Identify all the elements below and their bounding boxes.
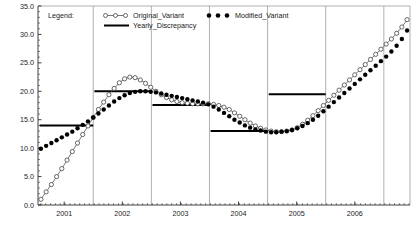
data-point-modified-variant bbox=[274, 130, 278, 134]
data-point-modified-variant bbox=[295, 126, 299, 130]
data-point-modified-variant bbox=[279, 129, 283, 133]
x-tick-label: 2002 bbox=[114, 209, 130, 218]
x-tick-label: 2003 bbox=[172, 209, 188, 218]
x-tick-label: 2004 bbox=[231, 209, 247, 218]
data-point-original-variant bbox=[138, 78, 142, 82]
data-point-original-variant bbox=[342, 83, 346, 87]
legend-title: Legend: bbox=[48, 11, 74, 20]
data-point-modified-variant bbox=[311, 118, 315, 122]
data-point-modified-variant bbox=[201, 100, 205, 104]
x-tick-label: 2001 bbox=[56, 209, 72, 218]
data-point-modified-variant bbox=[384, 54, 388, 58]
data-point-modified-variant bbox=[332, 100, 336, 104]
data-point-modified-variant bbox=[353, 82, 357, 86]
data-point-modified-variant bbox=[86, 119, 90, 123]
data-point-modified-variant bbox=[264, 129, 268, 133]
data-point-modified-variant bbox=[258, 128, 262, 132]
filled-circle-icon bbox=[216, 13, 221, 18]
data-point-modified-variant bbox=[101, 107, 105, 111]
data-point-modified-variant bbox=[347, 86, 351, 90]
data-point-original-variant bbox=[363, 62, 367, 66]
data-point-original-variant bbox=[321, 103, 325, 107]
data-point-modified-variant bbox=[394, 44, 398, 48]
data-point-original-variant bbox=[384, 42, 388, 46]
x-tick-label: 2006 bbox=[347, 209, 363, 218]
open-circle-icon bbox=[104, 14, 108, 18]
data-point-modified-variant bbox=[60, 135, 64, 139]
data-point-original-variant bbox=[60, 167, 64, 171]
data-point-original-variant bbox=[405, 18, 409, 22]
data-point-original-variant bbox=[337, 88, 341, 92]
data-point-modified-variant bbox=[227, 114, 231, 118]
data-point-original-variant bbox=[75, 141, 79, 145]
data-point-original-variant bbox=[117, 81, 121, 85]
data-point-original-variant bbox=[170, 98, 174, 102]
data-point-modified-variant bbox=[107, 103, 111, 107]
data-point-modified-variant bbox=[190, 98, 194, 102]
data-point-modified-variant bbox=[196, 99, 200, 103]
data-point-modified-variant bbox=[169, 94, 173, 98]
data-point-original-variant bbox=[327, 98, 331, 102]
data-point-modified-variant bbox=[185, 97, 189, 101]
y-tick-label: 10.0 bbox=[20, 144, 34, 153]
data-point-original-variant bbox=[311, 114, 315, 118]
data-point-original-variant bbox=[55, 174, 59, 178]
data-point-original-variant bbox=[379, 47, 383, 51]
data-point-modified-variant bbox=[75, 126, 79, 130]
data-point-original-variant bbox=[217, 103, 221, 107]
data-point-original-variant bbox=[222, 105, 226, 109]
data-point-original-variant bbox=[395, 31, 399, 35]
data-point-original-variant bbox=[112, 86, 116, 90]
data-point-original-variant bbox=[238, 114, 242, 118]
data-point-modified-variant bbox=[91, 115, 95, 119]
data-point-original-variant bbox=[44, 190, 48, 194]
data-point-modified-variant bbox=[128, 91, 132, 95]
data-point-modified-variant bbox=[175, 95, 179, 99]
data-point-modified-variant bbox=[65, 132, 69, 136]
data-point-modified-variant bbox=[211, 104, 215, 108]
data-point-modified-variant bbox=[358, 77, 362, 81]
y-tick-label: 15.0 bbox=[20, 115, 34, 124]
data-point-modified-variant bbox=[138, 89, 142, 93]
data-point-original-variant bbox=[128, 75, 132, 79]
data-point-modified-variant bbox=[321, 109, 325, 113]
data-point-original-variant bbox=[389, 37, 393, 41]
data-point-modified-variant bbox=[217, 107, 221, 111]
data-point-modified-variant bbox=[237, 120, 241, 124]
legend-label-modified-variant: Modified_Variant bbox=[235, 11, 288, 20]
data-point-modified-variant bbox=[300, 124, 304, 128]
data-point-modified-variant bbox=[49, 141, 53, 145]
chart-background bbox=[0, 0, 418, 232]
data-point-modified-variant bbox=[164, 92, 168, 96]
data-point-original-variant bbox=[133, 76, 137, 80]
data-point-modified-variant bbox=[400, 37, 404, 41]
data-point-modified-variant bbox=[253, 127, 257, 131]
data-point-original-variant bbox=[49, 182, 53, 186]
x-tick-label: 2005 bbox=[289, 209, 305, 218]
data-point-modified-variant bbox=[389, 49, 393, 53]
y-tick-label: 20.0 bbox=[20, 87, 34, 96]
data-point-original-variant bbox=[358, 68, 362, 72]
data-point-original-variant bbox=[70, 149, 74, 153]
data-point-modified-variant bbox=[206, 102, 210, 106]
data-point-modified-variant bbox=[81, 123, 85, 127]
open-circle-icon bbox=[124, 14, 128, 18]
data-point-original-variant bbox=[374, 52, 378, 56]
data-point-original-variant bbox=[332, 93, 336, 97]
data-point-original-variant bbox=[149, 85, 153, 89]
data-point-original-variant bbox=[227, 107, 231, 111]
y-tick-label: 5.0 bbox=[24, 172, 34, 181]
chart-canvas: 0.05.010.015.020.025.030.035.0 200120022… bbox=[0, 0, 418, 232]
data-point-original-variant bbox=[185, 101, 189, 105]
data-point-modified-variant bbox=[222, 111, 226, 115]
data-point-modified-variant bbox=[39, 147, 43, 151]
data-point-original-variant bbox=[353, 73, 357, 77]
data-point-modified-variant bbox=[368, 68, 372, 72]
data-point-modified-variant bbox=[96, 111, 100, 115]
data-point-modified-variant bbox=[285, 129, 289, 133]
data-point-original-variant bbox=[243, 118, 247, 122]
data-point-modified-variant bbox=[180, 96, 184, 100]
data-point-modified-variant bbox=[54, 138, 58, 142]
data-point-modified-variant bbox=[44, 144, 48, 148]
legend-label-yearly-discrepancy: Yearly_Discrepancy bbox=[133, 21, 197, 30]
